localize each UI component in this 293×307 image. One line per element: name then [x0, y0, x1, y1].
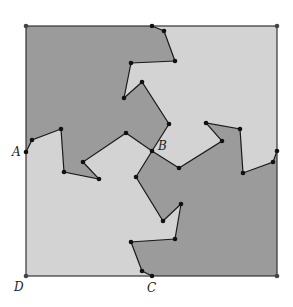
vertex-dot [241, 171, 246, 176]
vertex-dot [62, 170, 67, 175]
vertex-dot [122, 96, 127, 101]
vertex-dot [140, 269, 145, 274]
vertex-dot [161, 219, 166, 224]
point-label-b: B [157, 139, 167, 153]
vertex-dot [204, 121, 209, 126]
corner-dot [24, 274, 29, 279]
vertex-dot [177, 166, 182, 171]
vertex-dot [150, 24, 155, 29]
vertex-dot [59, 127, 64, 132]
pinwheel-diagram: ABCD [0, 0, 293, 307]
vertex-dot [97, 177, 102, 182]
corner-dot [24, 24, 29, 29]
vertex-dot [81, 160, 86, 165]
vertex-dot [271, 160, 276, 165]
corner-dot [275, 274, 280, 279]
vertex-dot [167, 122, 172, 127]
point-label-d: D [13, 280, 24, 294]
vertex-dot [220, 139, 225, 144]
vertex-dot [173, 237, 178, 242]
vertex-dot [162, 29, 167, 34]
corner-dot [275, 24, 280, 29]
point-label-c: C [147, 281, 156, 295]
vertex-dot [129, 240, 134, 245]
vertex-dot [173, 59, 178, 64]
vertex-dot [140, 80, 145, 85]
vertex-dot [275, 149, 280, 154]
vertex-dot [30, 138, 35, 143]
vertex-dot [150, 149, 155, 154]
vertex-dot [179, 202, 184, 207]
vertex-dot [24, 150, 29, 155]
point-label-a: A [11, 145, 21, 159]
vertex-dot [129, 61, 134, 66]
vertex-dot [124, 131, 129, 136]
vertex-dot [134, 175, 139, 180]
vertex-dot [238, 127, 243, 132]
vertex-dot [150, 274, 155, 279]
